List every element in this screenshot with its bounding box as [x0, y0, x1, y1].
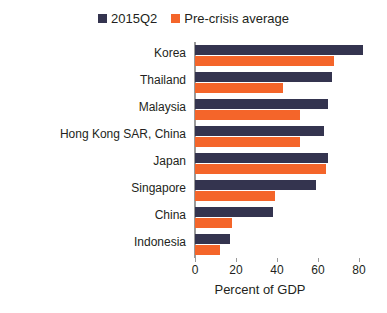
- x-axis-tick: [195, 258, 196, 262]
- x-axis-tick: [359, 258, 360, 262]
- category-axis-labels: KoreaThailandMalaysiaHong Kong SAR, Chin…: [0, 42, 190, 258]
- bar-precrisis: [195, 245, 220, 255]
- x-axis-tick: [318, 258, 319, 262]
- bar-group: [195, 42, 387, 69]
- legend-entry-pre-crisis-average: Pre-crisis average: [171, 12, 289, 25]
- category-label: Singapore: [0, 181, 186, 195]
- bar-group: [195, 150, 387, 177]
- plot-area: [195, 42, 387, 258]
- bar-precrisis: [195, 110, 300, 120]
- category-label: Japan: [0, 154, 186, 168]
- x-axis-tick: [277, 258, 278, 262]
- x-axis-tick-label: 60: [303, 263, 333, 277]
- bar-current: [195, 207, 273, 217]
- bar-current: [195, 180, 316, 190]
- bar-current: [195, 99, 328, 109]
- bar-precrisis: [195, 164, 326, 174]
- x-axis-tick-label: 80: [344, 263, 374, 277]
- category-label: Korea: [0, 46, 186, 60]
- chart-legend: 2015Q2 Pre-crisis average: [0, 8, 387, 28]
- category-label: Thailand: [0, 73, 186, 87]
- legend-swatch-2015q2: [98, 14, 107, 23]
- bar-current: [195, 234, 230, 244]
- bar-current: [195, 45, 363, 55]
- bar-precrisis: [195, 218, 232, 228]
- bar-current: [195, 72, 332, 82]
- x-axis-tick: [236, 258, 237, 262]
- bar-group: [195, 231, 387, 258]
- x-axis-title: Percent of GDP: [170, 282, 350, 297]
- bar-precrisis: [195, 191, 275, 201]
- bar-chart: 2015Q2 Pre-crisis average KoreaThailandM…: [0, 0, 387, 313]
- bar-current: [195, 126, 324, 136]
- legend-label-pre-crisis-average: Pre-crisis average: [184, 12, 289, 25]
- bar-group: [195, 123, 387, 150]
- bar-current: [195, 153, 328, 163]
- legend-entry-2015q2: 2015Q2: [98, 12, 157, 25]
- bar-precrisis: [195, 83, 283, 93]
- x-axis-tick-label: 40: [262, 263, 292, 277]
- category-label: Malaysia: [0, 100, 186, 114]
- bar-group: [195, 177, 387, 204]
- bar-group: [195, 96, 387, 123]
- category-label: China: [0, 208, 186, 222]
- bar-precrisis: [195, 137, 300, 147]
- bar-group: [195, 204, 387, 231]
- legend-swatch-pre-crisis-average: [171, 14, 180, 23]
- bar-precrisis: [195, 56, 334, 66]
- bar-group: [195, 69, 387, 96]
- x-axis-tick-label: 0: [180, 263, 210, 277]
- legend-label-2015q2: 2015Q2: [111, 12, 157, 25]
- x-axis-tick-label: 20: [221, 263, 251, 277]
- category-label: Indonesia: [0, 235, 186, 249]
- category-label: Hong Kong SAR, China: [0, 127, 186, 141]
